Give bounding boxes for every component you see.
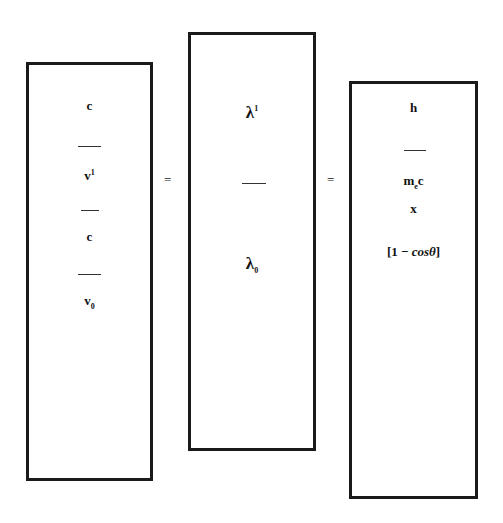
fraction-bar [81,210,99,211]
fraction-bar [404,150,426,151]
fraction-bar [78,274,101,275]
fraction-box-wavelength: λ1 λ0 [188,32,316,451]
c-second: c [29,230,150,244]
times-x: x [352,202,475,216]
equals-sign: = [327,172,334,188]
electron-mass-c: mec [352,174,475,194]
fraction-bar [78,146,101,147]
fraction-bar [242,183,266,184]
v-prime: v1 [29,166,150,183]
v-zero: v0 [29,294,150,314]
lambda-prime: λ1 [191,102,313,120]
c-numerator: c [29,99,150,113]
lambda-zero: λ0 [191,257,313,278]
fraction-box-frequency: c v1 c v0 [26,62,153,481]
planck-h: h [352,101,475,115]
equals-sign: = [164,172,171,188]
fraction-box-compton: h mec x [1 − cosθ] [349,81,478,499]
one-minus-cos-theta: [1 − cosθ] [352,245,475,259]
